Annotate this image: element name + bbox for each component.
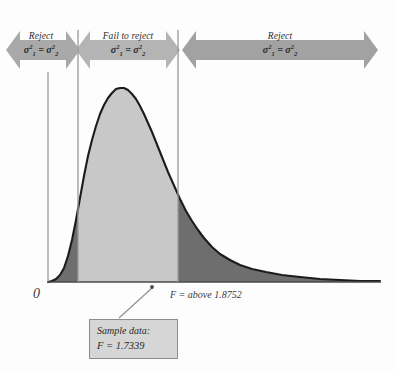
sample-data-callout: Sample data: F = 1.7339 [89,319,178,359]
critical-value-annotation: F = above 1.8752 [170,289,242,300]
distribution-area-fills [48,88,380,282]
chart-canvas [0,0,394,374]
arrow-band-fail-to-reject [76,31,180,69]
arrow-band-reject-left [6,31,80,69]
sample-data-value: F = 1.7339 [97,339,172,353]
sample-data-pointer-tip [150,285,154,289]
arrow-band-reject-right [182,31,378,69]
sample-data-pointer-line [119,288,152,318]
axis-origin-label: 0 [33,286,40,302]
sample-data-title: Sample data: [97,324,172,338]
f-distribution-hypothesis-test-figure: Reject σ21 = σ22 Fail to reject σ21 = σ2… [0,0,394,374]
